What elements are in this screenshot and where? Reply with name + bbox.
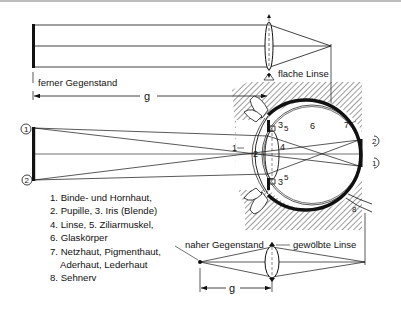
flat-lens-label: flache Linse	[278, 68, 329, 79]
svg-text:2: 2	[25, 176, 30, 185]
legend: 1. Binde- und Hornhaut, 2. Pupille, 3. I…	[50, 191, 161, 285]
svg-text:1: 1	[24, 125, 29, 134]
svg-text:1: 1	[232, 143, 237, 153]
legend-item: 2. Pupille, 3. Iris (Blende)	[50, 204, 161, 217]
svg-text:5: 5	[284, 173, 289, 182]
svg-text:2: 2	[372, 137, 377, 146]
object-marker-bottom: 2	[22, 175, 32, 185]
object-marker-top: 1	[21, 124, 31, 134]
svg-text:5: 5	[284, 124, 289, 133]
svg-text:2: 2	[253, 149, 258, 159]
svg-text:1: 1	[372, 159, 377, 168]
object-bar	[32, 127, 35, 181]
legend-item: 6. Glaskörper	[50, 231, 161, 244]
legend-item: 1. Binde- und Hornhaut,	[50, 191, 161, 204]
retina-marker-top: 2	[372, 136, 379, 146]
far-distance-dimension: g	[33, 90, 267, 102]
flat-lens	[264, 14, 274, 80]
svg-text:3: 3	[278, 120, 283, 130]
svg-text:6: 6	[310, 121, 315, 131]
curved-lens-label: gewölbte Linse	[293, 239, 356, 250]
near-distance-dimension: g	[200, 268, 272, 294]
svg-text:7: 7	[344, 120, 349, 130]
legend-item: 8. Sehnerv	[50, 271, 161, 284]
svg-text:3: 3	[278, 177, 283, 187]
near-distance-label: g	[229, 282, 235, 294]
near-object-label: naher Gegenstand	[185, 239, 264, 250]
far-object-label: ferner Gegenstand	[38, 77, 117, 88]
far-distance-label: g	[144, 90, 150, 102]
far-object-bar	[32, 24, 35, 68]
legend-item: 7. Netzhaut, Pigmenthaut,	[50, 245, 161, 258]
legend-item: 4. Linse, 5. Ziliarmuskel,	[50, 218, 161, 231]
retina-marker-bottom: 1	[372, 158, 379, 168]
svg-text:8: 8	[352, 205, 357, 214]
svg-text:4: 4	[280, 142, 285, 152]
legend-item: Aderhaut, Lederhaut	[50, 258, 161, 271]
